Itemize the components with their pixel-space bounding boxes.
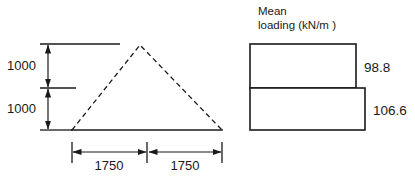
horizontal-dimension-label-left: 1750 (95, 158, 124, 173)
vertical-dimension-label-upper: 1000 (7, 58, 36, 73)
lower-loading-bar (250, 88, 365, 130)
upper-loading-value: 98.8 (364, 60, 390, 75)
mean-loading-group: Mean loading (kN/m ) 98.8 106.6 (250, 5, 407, 130)
upper-loading-bar (250, 44, 356, 88)
vertical-dimension-label-lower: 1000 (7, 101, 36, 116)
triangle-geometry-group: 1000 1000 1750 1750 (7, 44, 223, 173)
horizontal-dimension-label-right: 1750 (171, 158, 200, 173)
figure-canvas: 1000 1000 1750 1750 Mean loading (kN/m )… (0, 0, 415, 176)
engineering-diagram: 1000 1000 1750 1750 Mean loading (kN/m )… (0, 0, 415, 176)
lower-loading-value: 106.6 (373, 103, 407, 118)
mean-loading-title-line1: Mean (258, 5, 287, 17)
triangle-dashed-sides (72, 45, 222, 130)
mean-loading-title-line2: loading (kN/m ) (258, 19, 336, 31)
